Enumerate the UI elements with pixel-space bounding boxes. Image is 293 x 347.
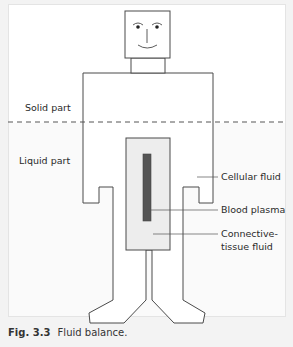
- figure-number: Fig. 3.3: [8, 327, 50, 338]
- right-eye: [155, 25, 159, 29]
- liquid-part-label: Liquid part: [19, 155, 70, 167]
- blood-plasma-bar: [143, 154, 151, 221]
- figure-caption: Fig. 3.3 Fluid balance.: [8, 325, 286, 343]
- blood-plasma-label: Blood plasma: [221, 204, 285, 216]
- cellular-fluid-label: Cellular fluid: [221, 171, 281, 183]
- left-eye: [136, 25, 140, 29]
- neck: [131, 58, 165, 73]
- head: [125, 11, 170, 58]
- connective-tissue-label-line2: tissue fluid: [221, 241, 273, 253]
- figure-title: Fluid balance.: [58, 327, 128, 338]
- connective-tissue-label-line1: Connective-: [221, 228, 278, 240]
- solid-part-label: Solid part: [25, 102, 71, 114]
